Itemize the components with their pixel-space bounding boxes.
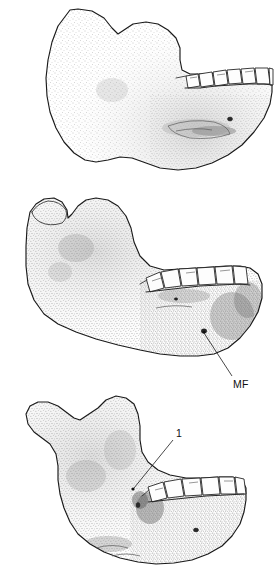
panel-b-pit [174, 298, 177, 301]
annotation-1-anchor-dot [131, 487, 134, 490]
panel-c-foramen [193, 528, 198, 532]
annotation-1-label: 1 [176, 427, 182, 439]
annotation-mf-label: MF [233, 378, 249, 390]
panel-c-pit [136, 502, 140, 507]
panel-a-foramen [227, 117, 232, 121]
annotation-mf-anchor-dot [203, 331, 206, 334]
mandible-figure-svg: MF [0, 0, 278, 586]
figure-root: MF [0, 0, 278, 586]
